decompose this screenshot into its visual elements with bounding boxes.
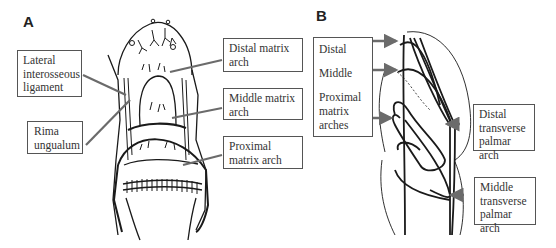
finger-lateral-illustration [379, 32, 470, 235]
callout-line: interosseous [23, 68, 76, 82]
callout-rima-ungualum: Rima ungualum [27, 121, 83, 154]
callout-line: transverse [480, 195, 530, 209]
callout-line: transverse [479, 122, 529, 136]
callout-line: arch [229, 106, 297, 120]
callout-line: Middle [319, 66, 367, 80]
callout-line: Distal [479, 108, 529, 122]
callout-line: Proximal [319, 90, 367, 104]
callout-line: Middle [480, 181, 530, 195]
callout-lateral-interosseous-ligament: Lateral interosseous ligament [17, 50, 82, 97]
callout-proximal-matrix-arch: Proximal matrix arch [223, 136, 303, 169]
callout-line: Lateral [23, 54, 76, 68]
panel-a-leader-lines [83, 60, 222, 165]
callout-line: Proximal [229, 140, 297, 154]
callout-line: ligament [23, 81, 76, 95]
callout-line: Middle matrix [229, 92, 297, 106]
callout-distal-matrix-arch: Distal matrix arch [223, 38, 303, 72]
panel-b-label: B [316, 7, 327, 24]
callout-middle-matrix-arch: Middle matrix arch [223, 88, 303, 120]
callout-line: Rima [34, 125, 77, 139]
callout-line: matrix [319, 104, 367, 118]
callout-line: arch [229, 56, 297, 70]
nail-bed-illustration [108, 19, 208, 240]
callout-line: ungualum [34, 139, 77, 153]
callout-middle-transverse-palmar-arch: Middle transverse palmar arch [474, 177, 536, 225]
callout-distal-transverse-palmar-arch: Distal transverse palmar arch [473, 104, 535, 151]
callout-line: matrix arch [229, 154, 297, 168]
callout-line: arches [319, 118, 367, 132]
callout-line: palmar arch [480, 208, 530, 235]
callout-line: Distal [319, 42, 367, 56]
panel-a-label: A [23, 13, 34, 30]
callout-line: Distal matrix [229, 42, 297, 56]
callout-matrix-arches: Distal Middle Proximal matrix arches [313, 37, 373, 137]
callout-line: palmar arch [479, 135, 529, 162]
